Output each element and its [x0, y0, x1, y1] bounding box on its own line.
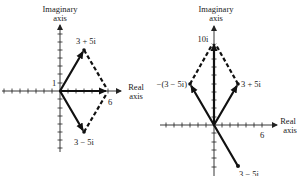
- right-point-neg-3-minus-5i: [188, 82, 192, 86]
- left-vector-3-plus-5i: [60, 53, 83, 92]
- complex-plane-figure: Imaginary axis Real axis 1 6 3 + 5i 3 − …: [0, 0, 297, 176]
- left-vector-3-minus-5i: [60, 91, 83, 130]
- right-label-3-plus-5i: 3 + 5i: [241, 79, 262, 89]
- left-label-3-plus-5i: 3 + 5i: [76, 36, 97, 46]
- right-dashed-side-left: [190, 44, 213, 84]
- right-label-neg-3-minus-5i: −(3 − 5i): [157, 79, 188, 89]
- right-dashed-side-right: [216, 44, 239, 84]
- right-point-3-plus-5i: [236, 82, 240, 86]
- right-label-3-minus-5i: 3 − 5i: [239, 169, 260, 176]
- right-point-3-minus-5i: [236, 164, 240, 168]
- right-vector-3-plus-5i: [214, 87, 237, 126]
- right-tick-label-6: 6: [260, 130, 264, 140]
- right-diagram: Imaginary axis Real axis 10i 6 3 + 5i −(…: [157, 4, 297, 176]
- left-tick-label-6: 6: [108, 97, 112, 107]
- left-label-3-minus-5i: 3 − 5i: [74, 137, 95, 147]
- left-dashed-side-top: [84, 50, 107, 89]
- right-real-axis-label-2: axis: [283, 125, 297, 135]
- left-point-3-plus-5i: [82, 48, 86, 52]
- left-imaginary-axis-label-2: axis: [53, 13, 67, 23]
- left-diagram: Imaginary axis Real axis 1 6 3 + 5i 3 − …: [2, 4, 144, 152]
- left-point-3-minus-5i: [82, 130, 86, 134]
- right-vector-neg-3-minus-5i: [192, 87, 215, 126]
- right-imaginary-axis-label-2: axis: [209, 13, 223, 23]
- left-dashed-side-bottom: [84, 93, 107, 132]
- left-real-axis-label-2: axis: [129, 91, 143, 101]
- left-tick-label-1: 1: [52, 78, 56, 88]
- right-vector-3-minus-5i: [214, 125, 237, 165]
- right-tick-label-10i: 10i: [198, 34, 210, 44]
